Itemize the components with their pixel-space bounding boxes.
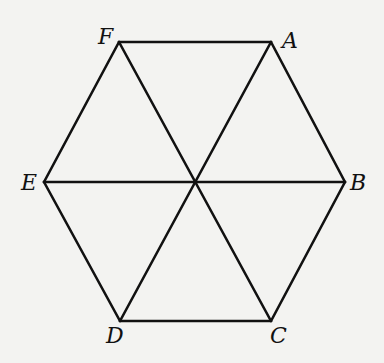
side-AB xyxy=(271,42,345,182)
vertex-label-D: D xyxy=(105,323,124,348)
vertex-label-A: A xyxy=(280,28,298,53)
hexagon-diagram: F A E B D C xyxy=(0,0,384,363)
side-DE xyxy=(44,182,120,321)
vertex-label-E: E xyxy=(20,170,37,195)
vertex-label-C: C xyxy=(270,323,287,348)
vertex-label-B: B xyxy=(349,170,366,195)
side-EF xyxy=(44,42,119,182)
vertex-label-F: F xyxy=(97,24,114,49)
side-BC xyxy=(271,182,345,321)
